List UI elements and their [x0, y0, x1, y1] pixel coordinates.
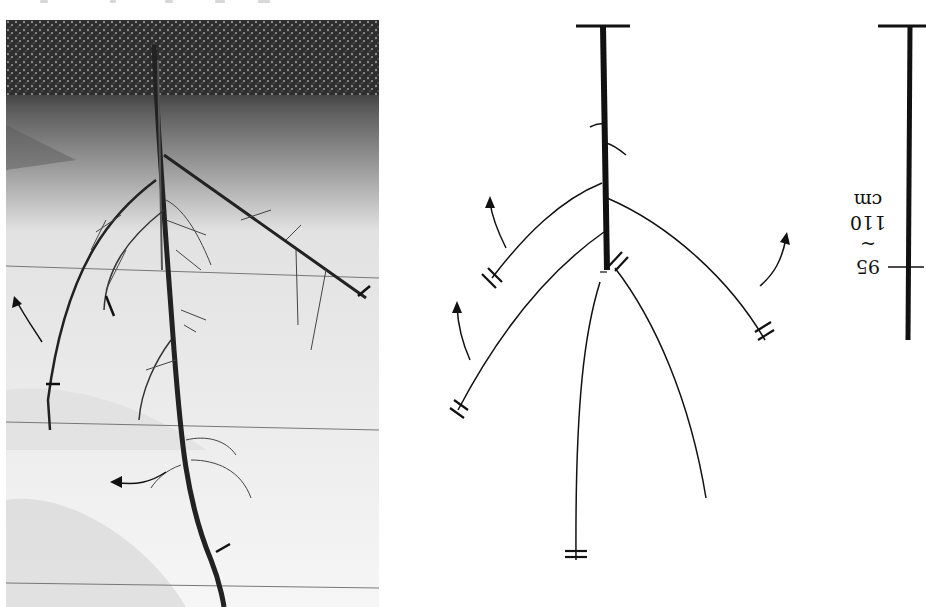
arrow-icon — [457, 307, 470, 360]
foliage-band — [6, 20, 379, 95]
plant-photo — [6, 20, 379, 607]
branch-upper-right — [607, 198, 765, 340]
scale-separator: ~ — [838, 234, 898, 256]
scale-bar-label: 95 ~ 110 cm — [838, 188, 898, 278]
diagram-main-stem — [603, 26, 607, 270]
scale-bar — [878, 26, 926, 340]
branch-center-left — [576, 282, 600, 560]
scale-unit: cm — [838, 190, 898, 212]
arrow-icon — [490, 202, 506, 248]
pruning-diagram — [430, 20, 926, 607]
cropped-caption-residue — [0, 0, 926, 6]
double-cut-marks — [450, 252, 774, 557]
arrow-icon — [760, 238, 786, 286]
scale-value-low: 95 — [838, 256, 898, 278]
scale-value-high: 110 — [838, 212, 898, 234]
branch-upper-left — [492, 183, 602, 278]
branch-center-right — [615, 268, 706, 498]
